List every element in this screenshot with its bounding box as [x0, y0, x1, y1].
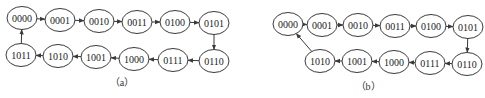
state-node-0000: 0000 [7, 7, 37, 30]
state-label: 1001 [347, 56, 367, 67]
state-label: 0001 [312, 20, 332, 31]
transition-arrow-1010-to-0000 [296, 34, 311, 52]
state-node-1010: 1010 [305, 50, 335, 73]
diagram-a-nodes: 0000000100100011010001010110011110001001… [6, 7, 229, 73]
state-label: 0111 [163, 55, 182, 66]
state-node-0101: 0101 [199, 12, 229, 35]
state-label: 1000 [384, 57, 404, 68]
state-node-1000: 1000 [379, 51, 409, 74]
caption-b: （b） [356, 81, 381, 92]
state-node-1011: 1011 [6, 44, 36, 67]
state-label: 0000 [278, 19, 298, 30]
state-label: 0111 [420, 58, 439, 69]
state-label: 0010 [89, 16, 109, 27]
state-node-0100: 0100 [416, 15, 446, 38]
state-node-1010: 1010 [43, 45, 73, 68]
state-node-0110: 0110 [199, 50, 229, 73]
state-label: 0110 [204, 56, 224, 67]
state-label: 0101 [458, 22, 478, 33]
state-node-0000: 0000 [273, 13, 303, 36]
state-node-0011: 0011 [122, 11, 152, 34]
captions-layer: （a）（b） [110, 77, 381, 92]
diagram-b-nodes: 0000000100100011010001010110011110001001… [273, 13, 483, 76]
state-label: 0010 [348, 20, 368, 31]
state-label: 1010 [310, 56, 330, 67]
state-node-0110: 0110 [452, 53, 482, 76]
state-label: 1010 [48, 51, 68, 62]
state-node-0111: 0111 [158, 49, 188, 72]
state-node-0010: 0010 [84, 10, 114, 33]
state-node-1001: 1001 [81, 46, 111, 69]
nodes-layer: 0000000100100011010001010110011110001001… [6, 7, 483, 76]
state-node-0001: 0001 [45, 9, 75, 32]
caption-a: （a） [110, 77, 134, 88]
state-diagram-canvas: 0000000100100011010001010110011110001001… [0, 0, 485, 98]
state-node-0010: 0010 [343, 14, 373, 37]
state-node-0111: 0111 [415, 52, 445, 75]
state-node-0011: 0011 [380, 15, 410, 38]
state-node-0001: 0001 [307, 14, 337, 37]
state-label: 1011 [11, 50, 31, 61]
state-label: 1000 [124, 54, 144, 65]
state-node-1000: 1000 [119, 48, 149, 71]
state-node-0100: 0100 [160, 11, 190, 34]
state-label: 0100 [165, 17, 185, 28]
state-node-1001: 1001 [342, 50, 372, 73]
state-label: 0001 [50, 15, 70, 26]
state-label: 0110 [457, 59, 477, 70]
state-label: 0101 [204, 18, 224, 29]
state-label: 1001 [86, 52, 106, 63]
state-label: 0000 [12, 13, 32, 24]
state-node-0101: 0101 [453, 16, 483, 39]
state-label: 0100 [421, 21, 441, 32]
state-label: 0011 [127, 17, 147, 28]
state-label: 0011 [385, 21, 405, 32]
